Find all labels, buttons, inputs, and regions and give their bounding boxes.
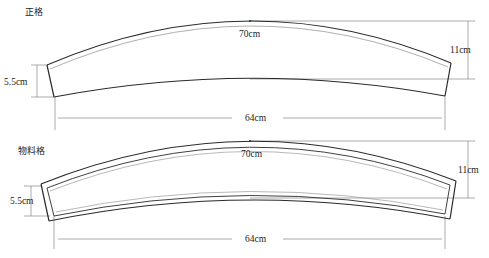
end-width-label: 5.5cm <box>10 197 33 207</box>
top-length-label: 70cm <box>241 150 262 160</box>
end-width-label: 5.5cm <box>4 78 27 88</box>
bottom-length-label: 64cm <box>245 235 266 245</box>
top-length-label: 70cm <box>239 30 260 40</box>
diagram-title-standard: 正格 <box>25 8 43 17</box>
height-label: 11cm <box>450 46 471 56</box>
bottom-length-label: 64cm <box>245 114 266 124</box>
diagram-title-material: 物料格 <box>18 147 45 156</box>
height-label: 11cm <box>458 166 479 176</box>
